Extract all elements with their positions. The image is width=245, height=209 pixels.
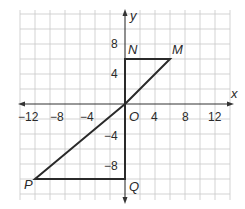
- vertex-label-P: P: [24, 177, 33, 192]
- y-axis-label: y: [129, 8, 138, 23]
- x-tick-label: 4: [151, 110, 158, 124]
- vertex-label-M: M: [172, 42, 183, 57]
- vertex-label-N: N: [128, 42, 138, 57]
- x-tick-label: −12: [18, 110, 39, 124]
- y-tick-label: 4: [111, 67, 118, 81]
- y-axis-down-arrow-icon: [123, 197, 128, 204]
- x-axis-right-arrow-icon: [227, 102, 234, 107]
- triangle-NMO: [125, 59, 170, 104]
- y-tick-label: −4: [104, 129, 118, 143]
- x-tick-label: 12: [208, 110, 222, 124]
- coordinate-plane: x y −12 −8 −4 4 8 12 8 4 −4 −8 N M O P Q: [0, 0, 245, 209]
- y-tick-label: −8: [104, 159, 118, 173]
- x-axis-label: x: [230, 86, 238, 101]
- x-tick-label: 8: [182, 110, 189, 124]
- x-tick-label: −8: [50, 110, 64, 124]
- x-tick-label: −4: [80, 110, 94, 124]
- vertex-label-Q: Q: [129, 179, 139, 194]
- y-axis-up-arrow-icon: [123, 9, 128, 16]
- origin-label: O: [129, 109, 139, 124]
- x-axis-left-arrow-icon: [18, 102, 25, 107]
- y-tick-label: 8: [111, 37, 118, 51]
